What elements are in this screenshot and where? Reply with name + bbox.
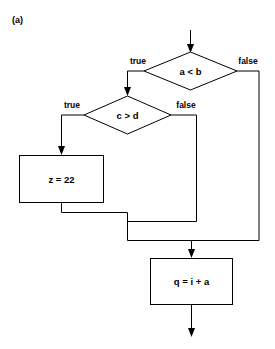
- decision-node-c-gt-d[interactable]: c > d: [84, 96, 171, 134]
- connector-exit: [188, 305, 195, 337]
- edge-label-d1-false: false: [238, 56, 258, 66]
- edge-label-d1-true: true: [130, 56, 146, 66]
- connector-entry: [187, 30, 194, 53]
- flowchart-diagram: a < b c > d z = 22 q = i + a true false …: [0, 0, 275, 349]
- connector-d2-true: [58, 115, 84, 155]
- decision-node-a-lt-b-label: a < b: [180, 66, 202, 77]
- edge-label-d2-true: true: [64, 100, 80, 110]
- decision-node-a-lt-b[interactable]: a < b: [144, 52, 237, 90]
- connector-d1-false: [192, 71, 260, 241]
- connector-d2-false: [128, 115, 197, 222]
- process-node-q-assign[interactable]: q = i + a: [151, 259, 233, 305]
- process-node-q-assign-label: q = i + a: [174, 276, 210, 287]
- decision-node-c-gt-d-label: c > d: [117, 110, 139, 121]
- flowchart-canvas: a < b c > d z = 22 q = i + a true false …: [0, 0, 275, 349]
- connector-merge-to-p2: [188, 241, 195, 259]
- process-node-z-assign[interactable]: z = 22: [20, 156, 104, 203]
- edge-label-d2-false: false: [176, 100, 196, 110]
- figure-label: (a): [12, 15, 23, 25]
- process-node-z-assign-label: z = 22: [48, 174, 74, 185]
- connector-d1-true: [124, 71, 144, 96]
